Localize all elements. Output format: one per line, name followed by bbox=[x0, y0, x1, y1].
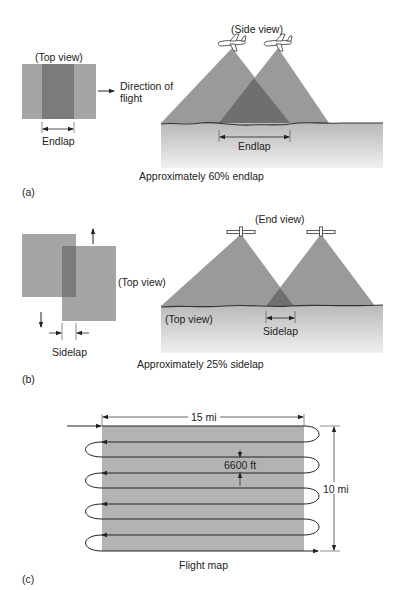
panel-a-caption: Approximately 60% endlap bbox=[139, 170, 264, 182]
height-label: 10 mi bbox=[323, 483, 349, 495]
camera-cone-end-1 bbox=[161, 234, 294, 306]
endlap-label-left: Endlap bbox=[42, 135, 75, 147]
top-view-label: (Top view) bbox=[35, 51, 83, 63]
direction-label-line1: Direction of bbox=[120, 80, 173, 92]
panel-a: (Top view) Direction of flight Endlap (S… bbox=[22, 23, 383, 198]
panel-b: (Top view) Sidelap (End view) (Top view)… bbox=[22, 213, 383, 385]
direction-label-line2: flight bbox=[120, 92, 142, 104]
top-view-ground-label: (Top view) bbox=[165, 313, 213, 325]
width-label: 15 mi bbox=[191, 411, 217, 423]
endlap-label-right: Endlap bbox=[238, 140, 271, 152]
panel-c-label: (c) bbox=[22, 573, 34, 585]
endlap-overlap-area bbox=[42, 64, 74, 119]
top-view-right-label: (Top view) bbox=[118, 276, 166, 288]
panel-a-label: (a) bbox=[22, 186, 35, 198]
panel-c-caption: Flight map bbox=[179, 559, 228, 571]
airplane-icon-2 bbox=[264, 34, 292, 51]
sidelap-overlap-area bbox=[62, 246, 76, 297]
side-view-label: (Side view) bbox=[231, 23, 283, 35]
aerial-photo-overlap-figure: (Top view) Direction of flight Endlap (S… bbox=[0, 0, 402, 590]
photo-pair-top-view bbox=[22, 64, 96, 119]
sidelap-label-right: Sidelap bbox=[263, 325, 298, 337]
airplane-end-icon-1 bbox=[227, 227, 255, 236]
airplane-icon-1 bbox=[218, 34, 246, 51]
spacing-label: 6600 ft bbox=[224, 459, 256, 471]
panel-b-caption: Approximately 25% sidelap bbox=[137, 358, 264, 370]
airplane-end-icon-2 bbox=[307, 227, 335, 236]
end-view-label: (End view) bbox=[255, 213, 305, 225]
panel-c: 15 mi 6600 ft 10 mi Flight map (c) bbox=[22, 411, 349, 585]
ground-side-view bbox=[161, 123, 383, 168]
panel-b-label: (b) bbox=[22, 373, 35, 385]
sidelap-label-left: Sidelap bbox=[52, 346, 87, 358]
